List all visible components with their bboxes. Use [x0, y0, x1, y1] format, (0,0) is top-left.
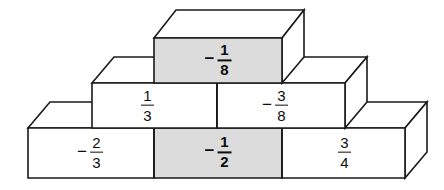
fraction-block-pyramid-figure: − 1 8 1 3 − 3 8 − 2 3 − 1	[0, 0, 444, 190]
block-bottom-1-front-face	[28, 128, 154, 178]
block-top-1-front-face	[154, 38, 282, 83]
block-top-1-top-face	[154, 10, 304, 38]
block-bottom-3-front-face	[282, 128, 405, 178]
block-middle-1-front-face	[92, 83, 217, 128]
block-bottom-2-front-face	[154, 128, 282, 178]
block-middle-2-front-face	[217, 83, 345, 128]
block-pyramid-drawing	[0, 0, 444, 190]
